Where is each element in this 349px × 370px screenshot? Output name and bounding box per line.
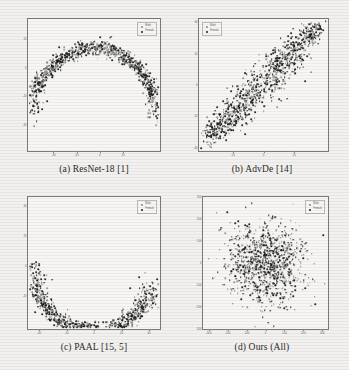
scatter-point [41,108,43,110]
scatter-point [70,318,72,320]
scatter-point [227,101,229,103]
scatter-point [259,70,261,72]
scatter-point [278,226,280,228]
scatter-point [275,260,277,262]
scatter-point [266,281,268,283]
scatter-point [228,108,230,110]
scatter-point [38,268,40,270]
y-axis-tick-mark [27,68,29,69]
scatter-point [257,264,259,266]
scatter-point [97,58,99,60]
scatter-point [260,260,262,262]
scatter-point [292,285,294,287]
scatter-point [269,288,271,290]
legend-entry-female: Female [139,29,154,34]
scatter-point [38,101,40,103]
scatter-point [255,97,257,99]
scatter-point [274,268,276,270]
subfigure-d: Male Female 3002001000-100-200-300-300-2… [186,196,338,361]
scatter-point [290,293,292,295]
scatter-point [245,122,247,124]
scatter-point [272,284,274,286]
scatter-point [282,46,284,48]
scatter-point [125,60,127,62]
scatter-point [229,274,231,276]
scatter-point [253,65,255,67]
scatter-point [145,307,147,309]
scatter-point [260,83,262,85]
scatter-point [142,92,144,94]
scatter-canvas-c [28,197,160,329]
scatter-point [266,85,268,87]
scatter-point [149,101,151,103]
caption-b: (b) AdvDe [14] [186,164,338,174]
scatter-point [100,50,102,52]
scatter-point [62,64,64,66]
scatter-point [310,71,312,73]
scatter-point [244,281,246,283]
scatter-point [267,229,269,231]
scatter-point [269,240,271,242]
scatter-point [131,322,133,324]
scatter-point [225,139,227,141]
scatter-point [45,85,47,87]
scatter-point [201,132,203,134]
scatter-point [291,244,293,246]
scatter-point [233,114,235,116]
scatter-point [242,105,244,107]
scatter-point [218,133,220,135]
scatter-point [134,312,136,314]
scatter-point [252,299,254,301]
scatter-point [250,239,252,241]
legend-label-female: Female [145,30,154,33]
scatter-point [60,314,62,316]
scatter-point [51,303,53,305]
scatter-point [255,266,257,268]
scatter-point [111,36,113,38]
scatter-point [273,261,275,263]
scatter-point [270,281,272,283]
scatter-point [46,296,48,298]
scatter-point [307,283,309,285]
scatter-point [40,279,42,281]
scatter-point [145,300,147,302]
scatter-point [258,96,260,98]
scatter-point [149,117,151,119]
scatter-point [234,256,236,258]
scatter-point [276,229,278,231]
scatter-point [84,50,86,52]
scatter-point [245,224,247,226]
scatter-point [259,218,261,220]
scatter-point [267,61,269,63]
scatter-point [230,288,232,290]
scatter-point [284,283,286,285]
scatter-point [231,249,233,251]
scatter-point [36,94,38,96]
scatter-point [136,60,138,62]
scatter-point [239,231,241,233]
x-axis-tick-mark [228,329,229,331]
scatter-point [134,69,136,71]
scatter-point [281,288,283,290]
scatter-point [140,296,142,298]
scatter-point [142,311,144,313]
scatter-point [275,295,277,297]
scatter-point [106,55,108,57]
scatter-point [214,110,216,112]
scatter-point [237,253,239,255]
scatter-point [299,261,301,263]
scatter-point [141,72,143,74]
scatter-point [274,242,276,244]
scatter-point [234,228,236,230]
x-axis-tick-mark [284,329,285,331]
scatter-point [307,259,309,261]
scatter-point [265,273,267,275]
scatter-point [51,299,53,301]
scatter-point [295,73,297,75]
scatter-point [137,294,139,296]
scatter-point [281,234,283,236]
scatter-point [280,267,282,269]
scatter-point [222,101,224,103]
scatter-point [279,60,281,62]
scatter-point [239,237,241,239]
